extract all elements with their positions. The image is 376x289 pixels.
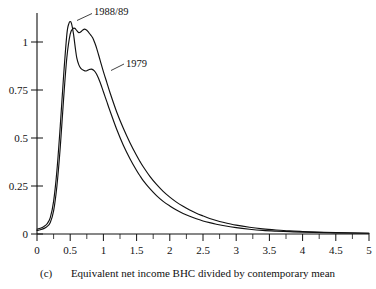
series-label-1979: 1979 (126, 58, 147, 69)
distribution-chart: 0 0.25 0.5 0.75 1 0 0.5 1 1.5 (0, 0, 376, 289)
chart-background (0, 0, 376, 289)
x-tick-label: 0 (34, 244, 40, 256)
x-tick-label: 4 (300, 244, 306, 256)
x-tick-label: 2 (167, 244, 173, 256)
x-tick-label: 2.5 (196, 244, 210, 256)
y-tick-label: 0.5 (14, 132, 28, 144)
x-tick-label: 3.5 (263, 244, 277, 256)
x-tick-label: 3 (233, 244, 239, 256)
y-tick-label: 0.75 (9, 84, 29, 96)
y-tick-label: 0.25 (9, 180, 29, 192)
y-tick-label: 1 (23, 36, 29, 48)
x-tick-label: 1.5 (130, 244, 144, 256)
x-axis-title: Equivalent net income BHC divided by con… (71, 267, 336, 279)
x-tick-label: 4.5 (329, 244, 343, 256)
x-tick-label: 5 (366, 244, 372, 256)
x-tick-label: 0.5 (63, 244, 77, 256)
y-tick-label: 0 (23, 228, 29, 240)
panel-label: (c) (40, 267, 53, 280)
series-label-1988-89: 1988/89 (94, 6, 128, 17)
x-tick-label: 1 (101, 244, 107, 256)
